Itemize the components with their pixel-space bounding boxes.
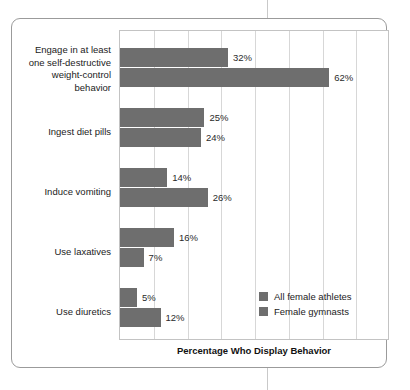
bar-series-1[interactable]	[120, 108, 204, 127]
x-axis-title: Percentage Who Display Behavior	[119, 345, 389, 356]
legend-label: Female gymnasts	[274, 306, 349, 317]
legend-item[interactable]: All female athletes	[259, 291, 352, 302]
category-label: Ingest diet pills	[0, 126, 111, 139]
bar-series-2[interactable]	[120, 68, 329, 87]
bar-series-2[interactable]	[120, 308, 161, 327]
bar-value-label: 32%	[233, 48, 252, 67]
bar-value-label: 5%	[142, 288, 156, 307]
bar-series-2[interactable]	[120, 188, 208, 207]
bar-series-1[interactable]	[120, 228, 174, 247]
bar-series-1[interactable]	[120, 288, 137, 307]
bar-series-2[interactable]	[120, 248, 144, 267]
bar-value-label: 24%	[206, 128, 225, 147]
category-label: Induce vomiting	[0, 186, 111, 199]
bar-value-label: 25%	[209, 108, 228, 127]
bar-chart: Engage in at least one self-destructive …	[12, 19, 388, 369]
chart-card: Engage in at least one self-destructive …	[11, 18, 387, 368]
bar-group: 32% 62%	[120, 48, 388, 88]
category-label: Engage in at least one self-destructive …	[0, 44, 111, 94]
legend-swatch-icon	[259, 292, 268, 301]
category-axis-labels: Engage in at least one self-destructive …	[12, 30, 115, 340]
category-label: Use diuretics	[0, 306, 111, 319]
legend-swatch-icon	[259, 307, 268, 316]
bar-value-label: 12%	[166, 308, 185, 327]
bar-value-label: 16%	[179, 228, 198, 247]
bar-value-label: 7%	[149, 248, 163, 267]
bar-value-label: 62%	[334, 68, 353, 87]
bar-group: 14% 26%	[120, 168, 388, 208]
category-label: Use laxatives	[0, 246, 111, 259]
legend-item[interactable]: Female gymnasts	[259, 306, 352, 317]
bar-value-label: 26%	[213, 188, 232, 207]
bar-series-1[interactable]	[120, 48, 228, 67]
bar-series-1[interactable]	[120, 168, 167, 187]
bar-group: 16% 7%	[120, 228, 388, 268]
legend-label: All female athletes	[274, 291, 352, 302]
bar-group: 25% 24%	[120, 108, 388, 148]
bar-value-label: 14%	[172, 168, 191, 187]
chart-legend: All female athletes Female gymnasts	[259, 291, 352, 321]
bar-series-2[interactable]	[120, 128, 201, 147]
